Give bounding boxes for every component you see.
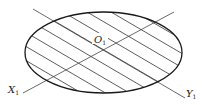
ellipse-outline: [25, 12, 182, 93]
y1-axis-label: Y1: [186, 88, 196, 100]
x1-axis-line: [23, 12, 174, 93]
section-diagram: O1 X1 Y1: [0, 0, 203, 105]
x1-axis-label: X1: [7, 84, 19, 96]
